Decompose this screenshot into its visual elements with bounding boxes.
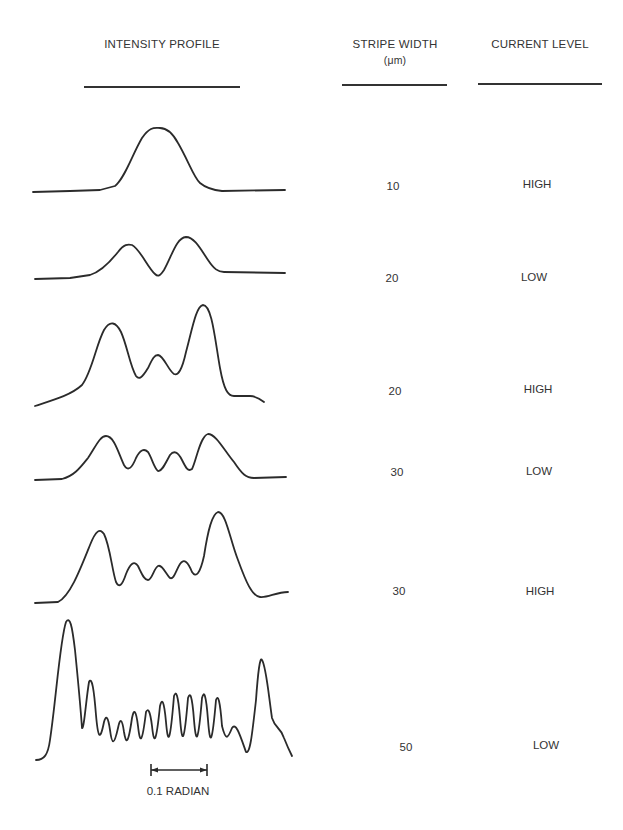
- row-1-current-level: HIGH: [523, 178, 552, 190]
- row-3-current-level: HIGH: [524, 383, 553, 395]
- profile-row-6: [36, 620, 292, 760]
- profile-row-4: [35, 434, 286, 480]
- intensity-profiles: [0, 0, 623, 830]
- row-3-stripe-width: 20: [389, 385, 402, 397]
- profile-row-3: [35, 305, 264, 406]
- row-5-current-level: HIGH: [526, 585, 555, 597]
- row-6-current-level: LOW: [533, 739, 559, 751]
- row-2-stripe-width: 20: [386, 272, 399, 284]
- profile-row-1: [33, 128, 285, 192]
- profile-row-2: [35, 237, 285, 279]
- scale-bar: [151, 764, 207, 776]
- row-1-stripe-width: 10: [387, 180, 400, 192]
- row-6-stripe-width: 50: [400, 741, 413, 753]
- scale-bar-label: 0.1 RADIAN: [147, 785, 210, 797]
- profile-row-5: [35, 512, 288, 603]
- row-2-current-level: LOW: [521, 271, 547, 283]
- row-4-stripe-width: 30: [391, 466, 404, 478]
- row-4-current-level: LOW: [526, 465, 552, 477]
- row-5-stripe-width: 30: [393, 585, 406, 597]
